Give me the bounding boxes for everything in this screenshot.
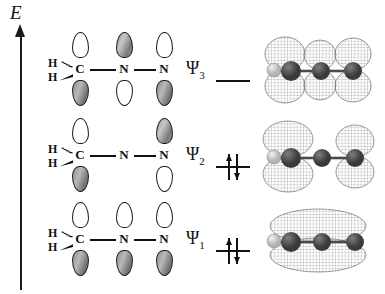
atom-label-nitrogen-center: N	[116, 62, 132, 76]
p-lobe-nitrogen-terminal-bottom	[156, 166, 173, 192]
p-lobe-nitrogen-center-top	[116, 32, 133, 58]
atom-label-carbon: C	[72, 148, 88, 162]
level-row-psi3: H H C N N	[0, 28, 385, 112]
psi3-isosurface	[252, 28, 384, 112]
bond-n-n	[134, 69, 156, 71]
orbital-skeleton-psi3: H H C N N	[48, 28, 178, 112]
energy-axis-label: E	[10, 2, 22, 24]
atom-label-nitrogen-center: N	[116, 232, 132, 246]
psi-symbol: Ψ	[186, 58, 199, 78]
atom-label-nitrogen-terminal: N	[156, 232, 172, 246]
p-lobe-carbon-bottom	[72, 250, 89, 276]
p-lobe-nitrogen-terminal-top	[156, 202, 173, 228]
orbital-skeleton-psi2: H H C N N	[48, 114, 178, 198]
orbital-skeleton-psi1: H H C N N	[48, 198, 178, 282]
hydrogen-upper-label: H	[48, 56, 57, 71]
atom-label-carbon: C	[72, 62, 88, 76]
hydrogen-lower-label: H	[48, 240, 57, 255]
psi2-isosurface	[252, 114, 384, 198]
electron-arrow-up	[225, 238, 233, 264]
atom-label-carbon: C	[72, 232, 88, 246]
psi-label-2: Ψ2	[186, 144, 205, 167]
electron-arrow-down	[233, 238, 241, 264]
psi-symbol: Ψ	[186, 228, 199, 248]
p-lobe-carbon-top	[72, 202, 89, 228]
level-row-psi1: H H C N N	[0, 198, 385, 282]
p-lobe-nitrogen-terminal-top	[156, 118, 173, 144]
hydrogen-upper-label: H	[48, 142, 57, 157]
energy-level-psi2	[216, 154, 250, 180]
bond-n-n	[134, 239, 156, 241]
mo-diagram: E H H	[0, 0, 385, 294]
bond-c-n	[90, 239, 116, 241]
p-lobe-nitrogen-center-bottom	[116, 80, 133, 106]
p-lobe-carbon-top	[72, 32, 89, 58]
psi-subscript: 1	[199, 239, 205, 251]
p-lobe-nitrogen-terminal-bottom	[156, 250, 173, 276]
psi-subscript: 2	[199, 155, 205, 167]
hydrogen-lower-label: H	[48, 156, 57, 171]
bond-n-n	[134, 155, 156, 157]
bond-c-n	[90, 69, 116, 71]
electron-arrow-down	[233, 154, 241, 180]
atom-label-nitrogen-terminal: N	[156, 148, 172, 162]
psi-symbol: Ψ	[186, 144, 199, 164]
p-lobe-nitrogen-terminal-top	[156, 32, 173, 58]
p-lobe-carbon-bottom	[72, 166, 89, 192]
psi-label-3: Ψ3	[186, 58, 205, 81]
energy-level-line	[216, 80, 250, 82]
hydrogen-upper-label: H	[48, 226, 57, 241]
atom-label-nitrogen-terminal: N	[156, 62, 172, 76]
psi1-isosurface	[252, 198, 384, 282]
energy-level-psi1	[216, 238, 250, 264]
p-lobe-nitrogen-center-top	[116, 202, 133, 228]
level-row-psi2: H H C N N	[0, 114, 385, 198]
p-lobe-nitrogen-center-bottom	[116, 250, 133, 276]
psi-subscript: 3	[199, 69, 205, 81]
p-lobe-carbon-top	[72, 118, 89, 144]
energy-level-psi3	[216, 68, 250, 94]
hydrogen-lower-label: H	[48, 70, 57, 85]
p-lobe-nitrogen-terminal-bottom	[156, 80, 173, 106]
bond-c-n	[90, 155, 116, 157]
electron-arrow-up	[225, 154, 233, 180]
psi-label-1: Ψ1	[186, 228, 205, 251]
p-lobe-carbon-bottom	[72, 80, 89, 106]
atom-label-nitrogen-center: N	[116, 148, 132, 162]
